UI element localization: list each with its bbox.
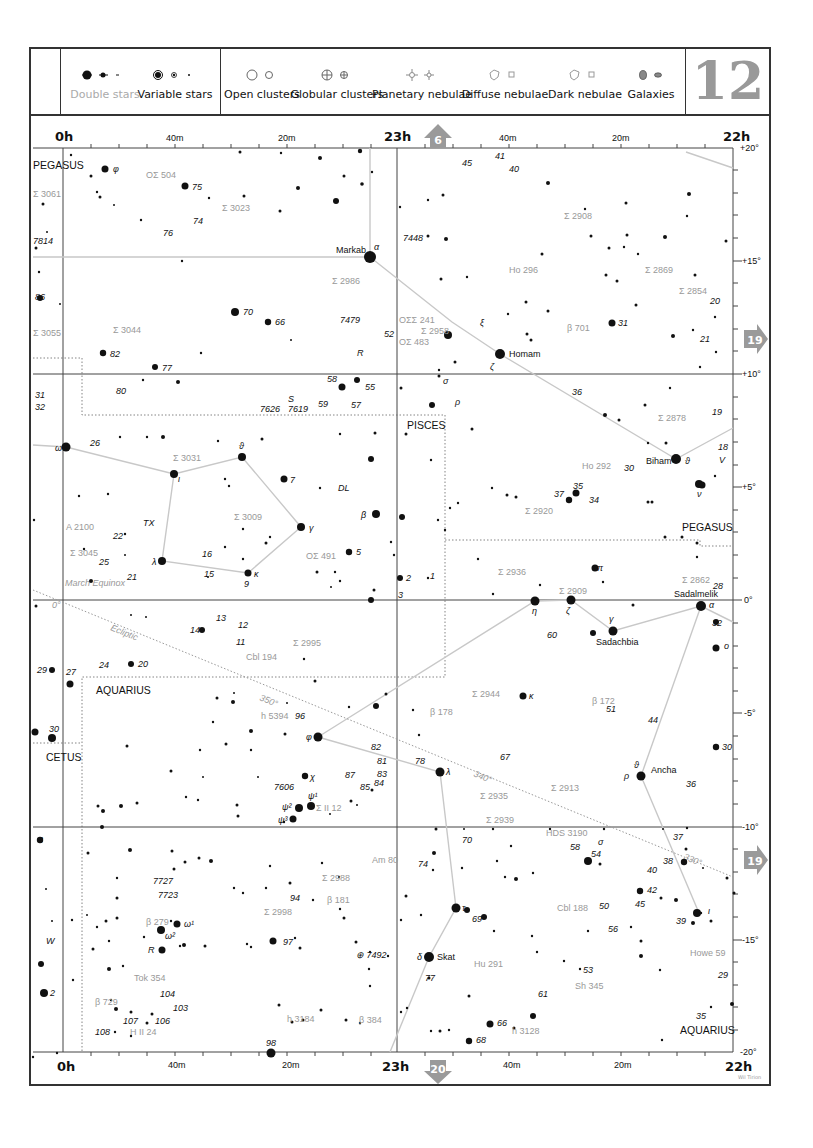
svg-text:Ecliptic: Ecliptic	[109, 623, 140, 643]
svg-text:80: 80	[116, 386, 126, 396]
svg-text:σ: σ	[598, 837, 604, 847]
svg-text:40m: 40m	[166, 133, 184, 143]
svg-text:77: 77	[162, 363, 173, 373]
svg-text:Σ 2944: Σ 2944	[472, 689, 500, 699]
svg-text:41: 41	[495, 151, 505, 161]
svg-text:2: 2	[405, 573, 411, 583]
nav-arrow-up[interactable]: 6	[424, 124, 452, 148]
svg-text:28: 28	[712, 581, 723, 591]
constellation-labels: PEGASUS PISCES PEGASUS AQUARIUS CETUS AQ…	[33, 159, 735, 1036]
svg-text:δ: δ	[417, 952, 423, 962]
svg-text:β 178: β 178	[430, 707, 453, 717]
svg-text:22h: 22h	[725, 1059, 752, 1074]
svg-text:Homam: Homam	[509, 349, 541, 359]
svg-text:57: 57	[351, 400, 362, 410]
svg-text:ΟΣ 483: ΟΣ 483	[399, 337, 429, 347]
svg-text:PISCES: PISCES	[407, 419, 446, 431]
svg-text:March Equinox: March Equinox	[65, 578, 126, 588]
ra-axis-bottom: 0h 40m 20m 23h 40m 20m 22h	[57, 1059, 752, 1074]
svg-text:22: 22	[112, 531, 123, 541]
svg-text:ω¹: ω¹	[184, 919, 194, 929]
svg-text:7727: 7727	[153, 876, 174, 886]
svg-text:7479: 7479	[340, 315, 360, 325]
svg-text:108: 108	[95, 1027, 110, 1037]
svg-text:30: 30	[49, 724, 59, 734]
svg-text:κ: κ	[529, 691, 534, 701]
svg-text:82: 82	[110, 349, 120, 359]
svg-text:350°: 350°	[258, 693, 279, 709]
svg-text:55: 55	[365, 382, 376, 392]
svg-text:0°: 0°	[744, 595, 753, 605]
svg-text:+10°: +10°	[742, 369, 761, 379]
svg-text:λ: λ	[151, 557, 156, 567]
nav-arrow-right-bottom[interactable]: 19	[744, 845, 768, 875]
svg-text:30: 30	[722, 742, 732, 752]
svg-text:0h: 0h	[57, 1059, 75, 1074]
svg-text:β 729: β 729	[95, 997, 118, 1007]
star-map: 0h 40m 20m 23h 40m 20m 22h 0h 40m 20m 23…	[0, 0, 813, 1148]
svg-text:58: 58	[570, 842, 580, 852]
svg-text:AQUARIUS: AQUARIUS	[96, 684, 151, 696]
svg-text:40: 40	[509, 164, 519, 174]
svg-text:30: 30	[624, 463, 634, 473]
svg-text:Σ 2986: Σ 2986	[332, 276, 360, 286]
svg-text:α: α	[374, 242, 380, 252]
svg-text:Σ 2854: Σ 2854	[679, 286, 707, 296]
svg-text:Sadachbia: Sadachbia	[596, 637, 639, 647]
svg-text:γ: γ	[609, 614, 614, 624]
svg-text:59: 59	[318, 399, 328, 409]
svg-text:Howe 59: Howe 59	[690, 948, 726, 958]
svg-text:ΟΣΣ 241: ΟΣΣ 241	[399, 315, 435, 325]
svg-text:12: 12	[238, 620, 248, 630]
svg-text:Σ 2909: Σ 2909	[559, 586, 587, 596]
svg-text:Σ 3061: Σ 3061	[33, 189, 61, 199]
svg-text:R: R	[357, 348, 364, 358]
svg-text:19: 19	[747, 334, 762, 347]
svg-text:32: 32	[35, 402, 45, 412]
svg-text:3: 3	[38, 835, 43, 845]
svg-text:+5°: +5°	[742, 482, 756, 492]
svg-text:14: 14	[190, 625, 200, 635]
svg-text:34: 34	[589, 495, 599, 505]
svg-text:TX: TX	[143, 518, 155, 528]
svg-text:PEGASUS: PEGASUS	[33, 159, 84, 171]
svg-text:ΟΣ 491: ΟΣ 491	[306, 551, 336, 561]
svg-text:66: 66	[275, 317, 285, 327]
svg-text:36: 36	[686, 779, 696, 789]
svg-text:60: 60	[547, 630, 557, 640]
svg-text:29: 29	[717, 970, 728, 980]
svg-text:β: β	[360, 510, 366, 520]
nav-arrow-down[interactable]: 20	[424, 1060, 452, 1084]
svg-text:V: V	[719, 455, 726, 465]
svg-text:S: S	[288, 394, 294, 404]
svg-text:7448: 7448	[403, 233, 423, 243]
svg-text:Σ 2936: Σ 2936	[498, 567, 526, 577]
svg-text:-20°: -20°	[740, 1047, 757, 1057]
nav-arrow-right-top[interactable]: 19	[744, 324, 768, 354]
svg-text:Ho 296: Ho 296	[509, 265, 538, 275]
svg-text:7606: 7606	[274, 782, 294, 792]
svg-text:9: 9	[244, 579, 249, 589]
svg-text:Cbl 188: Cbl 188	[557, 903, 588, 913]
svg-text:20: 20	[430, 1063, 446, 1076]
svg-text:Skat: Skat	[437, 952, 456, 962]
svg-text:π: π	[597, 563, 604, 573]
svg-text:σ: σ	[443, 376, 449, 386]
svg-text:H II 24: H II 24	[130, 1027, 157, 1037]
svg-text:42: 42	[647, 885, 657, 895]
svg-text:ψ¹: ψ¹	[308, 791, 318, 801]
svg-text:20m: 20m	[278, 133, 296, 143]
svg-text:25: 25	[98, 557, 110, 567]
svg-text:Cbl 194: Cbl 194	[246, 652, 277, 662]
svg-text:96: 96	[295, 711, 305, 721]
svg-text:56: 56	[608, 924, 618, 934]
svg-text:Σ II 12: Σ II 12	[316, 803, 342, 813]
svg-text:Σ 2995: Σ 2995	[293, 638, 321, 648]
svg-text:ζ: ζ	[490, 362, 495, 372]
svg-text:68: 68	[476, 1035, 486, 1045]
svg-text:β 701: β 701	[567, 323, 590, 333]
faint-stars	[32, 149, 736, 1058]
svg-text:40m: 40m	[168, 1060, 186, 1070]
svg-text:86: 86	[35, 292, 45, 302]
svg-text:77: 77	[425, 973, 436, 983]
